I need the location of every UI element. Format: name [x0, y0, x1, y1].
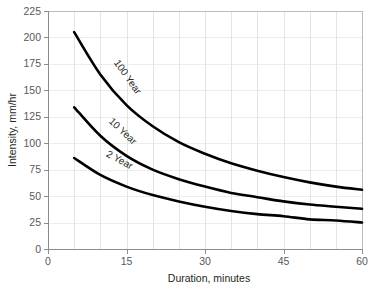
x-tick-label: 15 — [121, 255, 133, 267]
y-axis-title: Intensity, mm/hr — [6, 93, 18, 167]
x-axis-title: Duration, minutes — [168, 272, 250, 284]
y-tick-label: 0 — [35, 243, 41, 255]
y-tick-label: 50 — [29, 190, 41, 202]
chart-background — [0, 0, 377, 290]
y-tick-label: 75 — [29, 163, 41, 175]
x-tick-label: 0 — [45, 255, 51, 267]
x-tick-label: 45 — [278, 255, 290, 267]
y-tick-label: 175 — [23, 57, 41, 69]
y-tick-label: 150 — [23, 84, 41, 96]
x-tick-label: 30 — [199, 255, 211, 267]
idf-curve-chart: 0255075100125150175200225 015304560 100 … — [0, 0, 377, 290]
y-tick-label: 200 — [23, 31, 41, 43]
y-tick-label: 25 — [29, 216, 41, 228]
y-tick-label: 125 — [23, 110, 41, 122]
y-tick-label: 225 — [23, 5, 41, 17]
y-tick-label: 100 — [23, 137, 41, 149]
x-tick-label: 60 — [356, 255, 368, 267]
chart-canvas: 0255075100125150175200225 015304560 100 … — [0, 0, 377, 290]
